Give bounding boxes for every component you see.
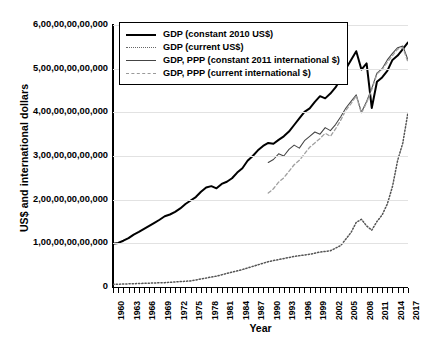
x-minor-tick	[325, 288, 326, 293]
x-minor-tick	[304, 288, 305, 293]
y-tick-label: 4,00,00,00,00,000	[3, 106, 108, 116]
x-minor-tick	[227, 288, 228, 293]
x-minor-tick	[372, 288, 373, 293]
x-minor-tick	[315, 288, 316, 293]
legend-item[interactable]: GDP (constant 2010 US$)	[126, 27, 340, 40]
legend-item[interactable]: GDP (current US$)	[126, 40, 340, 53]
legend-swatch-icon	[126, 42, 156, 52]
x-tick-label: 1975	[194, 301, 204, 320]
x-minor-tick	[258, 288, 259, 293]
x-minor-tick	[387, 288, 388, 293]
x-minor-tick	[361, 288, 362, 293]
x-minor-tick	[392, 288, 393, 293]
x-minor-tick	[284, 288, 285, 293]
legend-item-label: GDP (current US$)	[163, 42, 244, 52]
gdp-line-chart: US$ and international dollars 01,00,00,0…	[0, 0, 426, 345]
x-tick-label: 1984	[241, 301, 251, 320]
x-tick-label: 1969	[163, 301, 173, 320]
gridline	[113, 243, 408, 244]
x-minor-tick	[273, 288, 274, 293]
x-minor-tick	[232, 288, 233, 293]
x-minor-tick	[408, 288, 409, 293]
x-tick-label: 1993	[287, 301, 297, 320]
x-minor-tick	[289, 288, 290, 293]
y-tick-label: 3,00,00,00,00,000	[3, 150, 108, 160]
x-minor-tick	[217, 288, 218, 293]
gridline	[113, 200, 408, 201]
x-tick-label: 1999	[318, 301, 328, 320]
x-tick-label: 2008	[365, 301, 375, 320]
series-line	[113, 112, 408, 284]
x-minor-tick	[222, 288, 223, 293]
x-minor-tick	[191, 288, 192, 293]
x-tick-label: 1987	[256, 301, 266, 320]
x-minor-tick	[367, 288, 368, 293]
x-minor-tick	[346, 288, 347, 293]
x-tick-label: 1960	[116, 301, 126, 320]
legend-item-label: GDP, PPP (current international $)	[163, 68, 311, 78]
x-minor-tick	[134, 288, 135, 293]
x-minor-tick	[165, 288, 166, 293]
x-minor-tick	[336, 288, 337, 293]
x-minor-tick	[310, 288, 311, 293]
x-minor-tick	[185, 288, 186, 293]
x-tick-label: 2005	[349, 301, 359, 320]
y-tick-label: 6,00,00,00,00,000	[3, 19, 108, 29]
x-minor-tick	[403, 288, 404, 293]
x-minor-tick	[320, 288, 321, 293]
y-tick-label: 1,00,00,00,00,000	[3, 237, 108, 247]
legend-item-label: GDP (constant 2010 US$)	[163, 29, 273, 39]
x-minor-tick	[356, 288, 357, 293]
x-minor-tick	[129, 288, 130, 293]
legend-item[interactable]: GDP, PPP (current international $)	[126, 66, 340, 79]
x-tick-label: 1978	[210, 301, 220, 320]
x-minor-tick	[330, 288, 331, 293]
x-minor-tick	[144, 288, 145, 293]
x-minor-tick	[175, 288, 176, 293]
gridline	[113, 156, 408, 157]
x-minor-tick	[113, 288, 114, 293]
x-minor-tick	[377, 288, 378, 293]
legend-item[interactable]: GDP, PPP (constant 2011 international $)	[126, 53, 340, 66]
x-minor-tick	[279, 288, 280, 293]
legend-swatch-icon	[126, 68, 156, 78]
x-tick-label: 2017	[411, 301, 421, 320]
x-minor-tick	[237, 288, 238, 293]
x-minor-tick	[170, 288, 171, 293]
x-minor-tick	[201, 288, 202, 293]
x-minor-tick	[196, 288, 197, 293]
x-minor-tick	[268, 288, 269, 293]
x-tick-label: 1990	[272, 301, 282, 320]
x-axis-title: Year	[113, 322, 408, 334]
x-minor-tick	[242, 288, 243, 293]
chart-legend: GDP (constant 2010 US$)GDP (current US$)…	[119, 22, 348, 85]
x-tick-label: 2011	[380, 301, 390, 320]
x-tick-label: 1966	[147, 301, 157, 320]
y-tick-label: 2,00,00,00,00,000	[3, 194, 108, 204]
y-tick-label: 5,00,00,00,00,000	[3, 63, 108, 73]
legend-item-label: GDP, PPP (constant 2011 international $)	[163, 55, 340, 65]
x-minor-tick	[294, 288, 295, 293]
x-minor-tick	[299, 288, 300, 293]
x-minor-tick	[351, 288, 352, 293]
x-minor-tick	[180, 288, 181, 293]
x-minor-tick	[398, 288, 399, 293]
x-minor-tick	[206, 288, 207, 293]
legend-swatch-icon	[126, 29, 156, 39]
x-minor-tick	[139, 288, 140, 293]
gridline	[113, 112, 408, 113]
x-minor-tick	[154, 288, 155, 293]
x-minor-tick	[149, 288, 150, 293]
x-minor-tick	[160, 288, 161, 293]
x-minor-tick	[123, 288, 124, 293]
x-tick-label: 1996	[303, 301, 313, 320]
x-minor-tick	[248, 288, 249, 293]
x-minor-tick	[382, 288, 383, 293]
x-tick-label: 1981	[225, 301, 235, 320]
y-axis-tick-labels: 01,00,00,00,00,0002,00,00,00,00,0003,00,…	[2, 0, 108, 345]
x-minor-tick	[118, 288, 119, 293]
legend-swatch-icon	[126, 55, 156, 65]
x-minor-tick	[211, 288, 212, 293]
x-minor-tick	[341, 288, 342, 293]
x-tick-label: 1972	[179, 301, 189, 320]
